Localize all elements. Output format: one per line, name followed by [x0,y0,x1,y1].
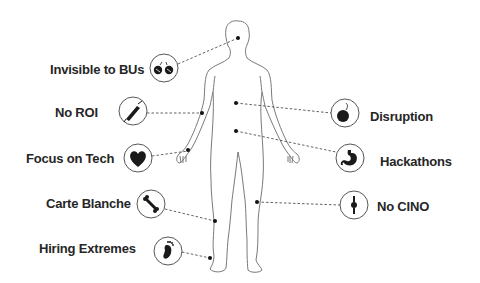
human-body-outline [177,21,300,272]
anchor-dot-arm [200,111,204,115]
stomach-icon-circle [336,144,364,172]
anchor-dot-thigh [213,219,217,223]
label-no-roi: No ROI [55,106,98,119]
label-disruption: Disruption [370,110,433,123]
label-hiring-extremes: Hiring Extremes [39,242,136,255]
label-no-cino: No CINO [377,200,429,213]
anchor-dots [186,36,259,260]
anchor-dot-chest [234,101,238,105]
anchor-dot-knee [255,200,259,204]
label-hackathons: Hackathons [380,155,452,168]
anchor-dot-head [236,36,240,40]
label-focus-on-tech: Focus on Tech [26,152,114,165]
glasses-icon-circle [150,54,178,82]
anchor-dot-ankle [208,256,212,260]
label-invisible-to-bus: Invisible to BUs [50,63,144,76]
anchor-dot-hand [186,148,190,152]
anchor-dot-abdomen [234,129,238,133]
label-carte-blanche: Carte Blanche [46,197,131,210]
